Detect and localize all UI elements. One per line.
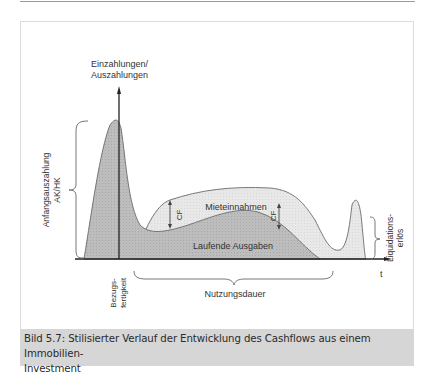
usage-period-label: Nutzungsdauer	[204, 289, 265, 299]
cf-label-2: CF	[269, 211, 278, 222]
initial-payment-brace	[69, 121, 88, 258]
liquidation-label-line1: Liquidations-	[385, 214, 395, 262]
x-axis-label: t	[380, 269, 383, 279]
figure-caption: Bild 5.7: Stilisierter Verlauf der Entwi…	[20, 329, 414, 366]
liquidation-brace	[370, 217, 380, 259]
caption-line-1: Bild 5.7: Stilisierter Verlauf der Entwi…	[24, 331, 410, 361]
initial-payment-label-line2: AK/HK	[52, 177, 62, 203]
y-axis-label-line1: Einzahlungen/	[91, 59, 149, 69]
liquidation-label-line2: erlös	[395, 229, 405, 247]
completion-label-line1: Bezugs-	[109, 278, 118, 308]
running-costs-label: Laufende Ausgaben	[193, 241, 273, 251]
caption-line-2: Investment	[24, 361, 410, 376]
rental-income-label: Mieteinnahmen	[205, 202, 267, 212]
y-axis-label-line2: Auszahlungen	[91, 70, 148, 80]
usage-period-brace	[134, 271, 333, 285]
cf-label-1: CF	[175, 210, 184, 221]
initial-payment-label-line1: Anfangsauszahlung	[41, 152, 51, 227]
y-axis-arrowhead	[117, 86, 121, 94]
cashflow-diagram: Einzahlungen/ Auszahlungen Anfangsauszah…	[0, 0, 437, 330]
completion-label-line2: fertigkeit	[119, 277, 128, 308]
